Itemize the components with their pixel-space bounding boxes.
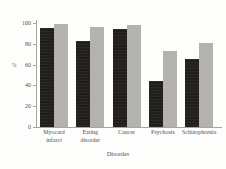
bar-black-bars-4 [149, 81, 163, 127]
y-axis-line [36, 20, 37, 127]
y-tick-label: 60 [13, 62, 31, 69]
bar-gray-bars-2 [90, 27, 104, 127]
y-tick-mark [33, 44, 37, 45]
x-axis-title: Disorder [90, 150, 146, 157]
bar-gray-bars-5 [199, 43, 213, 127]
x-category-label-line: Schizophrenia [176, 128, 222, 136]
bar-gray-bars-1 [54, 24, 68, 127]
bar-gray-bars-3 [127, 25, 141, 127]
y-tick-mark [33, 85, 37, 86]
y-tick-label: 20 [13, 103, 31, 110]
y-tick-label: 0 [13, 124, 31, 131]
bar-gray-bars-4 [163, 51, 177, 127]
x-category-label-line: disorder [67, 136, 113, 144]
bar-chart-figure: % 020406080100 MyocardinfarctEatingdisor… [0, 0, 226, 169]
y-tick-label: 100 [13, 20, 31, 27]
bar-black-bars-2 [76, 41, 90, 127]
bar-black-bars-1 [40, 28, 54, 127]
y-tick-mark [33, 106, 37, 107]
bar-black-bars-5 [185, 59, 199, 127]
x-category-label: Schizophrenia [176, 128, 222, 136]
y-tick-label: 80 [13, 41, 31, 48]
y-tick-mark [33, 65, 37, 66]
y-tick-label: 40 [13, 82, 31, 89]
y-tick-mark [33, 23, 37, 24]
bar-black-bars-3 [113, 29, 127, 127]
plot-area: 020406080100 MyocardinfarctEatingdisorde… [0, 0, 226, 169]
